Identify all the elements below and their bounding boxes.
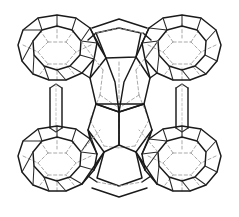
framework-figure <box>0 0 239 217</box>
framework-diagram <box>0 0 239 217</box>
